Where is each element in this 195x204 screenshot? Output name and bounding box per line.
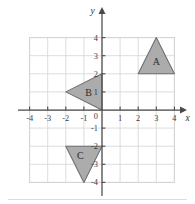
y-tick-label: 2 <box>94 70 98 79</box>
y-axis-label: y <box>89 6 95 16</box>
coordinate-plane-figure: -4 -3 -2 -1 1 2 3 4 4 3 2 1 -1 -2 -3 -4 … <box>0 0 195 204</box>
x-tick-label: 3 <box>154 114 158 123</box>
shape-label-c: C <box>77 150 84 161</box>
x-tick-label: 1 <box>118 114 122 123</box>
y-tick-label: -4 <box>91 178 99 187</box>
y-tick-label: -2 <box>91 142 98 151</box>
x-tick-label: -1 <box>80 114 87 123</box>
x-tick-label: 2 <box>136 114 140 123</box>
x-axis-label: x <box>184 113 190 123</box>
x-tick-label: -4 <box>26 114 34 123</box>
shape-label-b: B <box>85 87 92 98</box>
shape-label-a: A <box>153 56 161 67</box>
x-tick-label: -2 <box>62 114 69 123</box>
x-tick-label: -3 <box>44 114 51 123</box>
y-axis-arrow-icon <box>99 7 106 14</box>
origin-label: 0 <box>94 112 98 121</box>
y-tick-label: 3 <box>94 52 98 61</box>
y-tick-label: 1 <box>94 88 98 97</box>
y-tick-label: -3 <box>91 160 98 169</box>
axes-group <box>18 7 187 196</box>
coordinate-plane-svg: -4 -3 -2 -1 1 2 3 4 4 3 2 1 -1 -2 -3 -4 … <box>0 0 195 204</box>
x-tick-label: 4 <box>172 114 177 123</box>
y-tick-label: -1 <box>91 124 98 133</box>
